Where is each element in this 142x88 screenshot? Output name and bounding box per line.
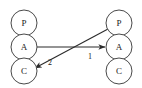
graph-diagram: P A C P A C [0, 0, 142, 88]
node-left-a-label: A [21, 42, 28, 52]
edge-group [35, 29, 108, 68]
node-right-p: P [106, 10, 132, 36]
node-left-p-label: P [21, 18, 26, 28]
node-right-a-label: A [116, 42, 123, 52]
right-column: P A C [106, 10, 132, 84]
edge-2-label: 2 [48, 58, 52, 67]
edge-label-group: 1 2 [48, 52, 92, 67]
diagram-canvas: P A C P A C [0, 0, 142, 88]
node-right-c-label: C [116, 66, 122, 76]
node-right-a: A [106, 34, 132, 60]
edge-2-line [35, 29, 108, 68]
left-column: P A C [11, 10, 37, 84]
node-left-c-label: C [21, 66, 27, 76]
node-left-p: P [11, 10, 37, 36]
node-right-p-label: P [116, 18, 121, 28]
node-left-a: A [11, 34, 37, 60]
node-left-c: C [11, 58, 37, 84]
edge-1-label: 1 [88, 52, 92, 61]
node-right-c: C [106, 58, 132, 84]
